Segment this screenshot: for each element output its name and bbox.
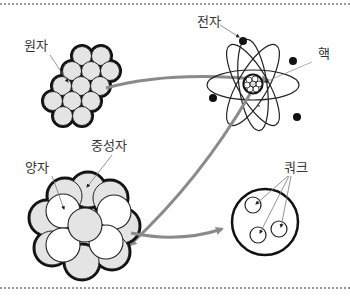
nucleus-icon — [244, 75, 263, 94]
quark-icon — [271, 221, 287, 237]
quark-icon — [245, 197, 261, 213]
electron-icon — [293, 113, 301, 121]
label-quark: 쿼크 — [284, 160, 308, 175]
label-electron: 전자 — [197, 14, 221, 29]
electron-icon — [239, 37, 247, 45]
matter-structure-diagram: 원자 전자 핵 — [0, 0, 350, 299]
label-atom: 원자 — [24, 38, 48, 53]
stray-dot — [258, 105, 260, 107]
label-nucleus: 핵 — [318, 46, 330, 61]
nucleus-leader-line — [265, 62, 312, 82]
label-neutron: 중성자 — [91, 138, 127, 153]
electron-icon — [289, 57, 297, 65]
nucleus-cluster-icon — [30, 173, 139, 279]
electron-icon — [209, 94, 217, 102]
quark-circle-icon — [232, 189, 298, 255]
quark-icon — [250, 227, 266, 243]
neutron-icon — [68, 208, 102, 242]
electron-leader-line — [220, 25, 239, 37]
label-proton: 양자 — [25, 160, 49, 175]
